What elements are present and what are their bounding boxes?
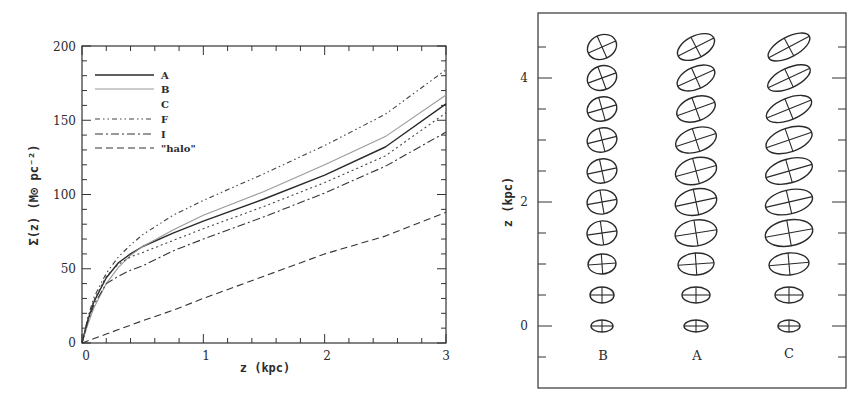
ellipse-marker-b <box>587 253 616 275</box>
ellipse-marker-b <box>585 125 620 156</box>
surface-density-plot: ABCFI"halo" 0 1 2 3 0 50 100 150 200 z (… <box>27 40 450 375</box>
left-plot-frame <box>82 46 446 343</box>
ellipse-marker-c <box>763 153 816 189</box>
xtick-label: 3 <box>442 349 450 363</box>
xtick-label: 0 <box>82 349 90 363</box>
ytick-label: 0 <box>520 319 528 333</box>
ellipse-marker-c <box>762 121 815 159</box>
legend-label: F <box>161 114 168 125</box>
ellipse-marker-a <box>673 185 719 219</box>
ellipse-marker-c <box>763 90 816 128</box>
ellipse-marker-a <box>682 287 710 303</box>
x-axis-title: z (kpc) <box>240 361 291 375</box>
ellipse-marker-a <box>673 28 719 66</box>
ellipse-marker-a <box>673 91 719 127</box>
legend-label: "halo" <box>161 143 196 154</box>
ellipse-marker-a <box>673 217 719 249</box>
ellipse-marker-b <box>591 320 613 332</box>
ellipse-marker-b <box>585 188 619 217</box>
curve-c <box>82 113 446 343</box>
ellipse-marker-a <box>684 320 708 332</box>
xtick-label: 1 <box>202 349 210 363</box>
y-axis-title: z (kpc) <box>501 177 515 228</box>
ellipse-marker-c <box>778 320 800 332</box>
ytick-label: 50 <box>61 262 76 276</box>
curve-halo <box>82 212 446 343</box>
y-axis-title: Σ(z) (M⊙ pc⁻²) <box>27 144 41 245</box>
ytick-label: 150 <box>53 114 76 128</box>
column-label-b: B <box>598 348 608 363</box>
legend: ABCFI"halo" <box>95 70 196 154</box>
ellipse-marker-c <box>763 185 815 219</box>
legend-label: B <box>161 84 169 95</box>
xtick-label: 2 <box>323 349 331 363</box>
ellipse-marker-a <box>672 122 719 158</box>
legend-label: C <box>161 99 169 110</box>
ytick-label: 100 <box>53 188 76 202</box>
curve-i <box>82 132 446 343</box>
ellipse-marker-a <box>677 252 714 276</box>
ellipse-marker-b <box>585 156 619 186</box>
left-curves <box>82 70 446 343</box>
ellipse-marker-a <box>672 153 719 189</box>
ellipse-marker-c <box>775 287 803 303</box>
ellipse-grid <box>583 27 815 332</box>
ellipse-marker-c <box>764 27 814 66</box>
legend-label: A <box>160 70 169 81</box>
ellipse-marker-c <box>768 251 810 276</box>
curve-b <box>82 95 446 343</box>
curve-a <box>82 104 446 343</box>
ellipse-diagram: 0 2 4 z (kpc) B A C <box>501 13 846 388</box>
ellipse-marker-b <box>590 287 614 303</box>
ellipse-marker-b <box>584 93 619 124</box>
ellipse-marker-b <box>585 219 618 247</box>
ellipse-marker-c <box>763 216 815 250</box>
ytick-label: 4 <box>520 71 528 85</box>
ellipse-marker-c <box>764 59 814 97</box>
legend-label: I <box>161 129 166 140</box>
ellipse-marker-a <box>673 60 718 96</box>
column-label-a: A <box>691 348 702 363</box>
right-axis-ticks <box>538 47 846 357</box>
left-axis-ticks <box>82 46 446 343</box>
ytick-label: 0 <box>68 336 76 350</box>
ytick-label: 2 <box>520 195 528 209</box>
column-label-c: C <box>784 346 794 361</box>
figure: ABCFI"halo" 0 1 2 3 0 50 100 150 200 z (… <box>0 0 868 403</box>
ellipse-marker-b <box>583 30 620 64</box>
ytick-label: 200 <box>53 40 76 54</box>
ellipse-marker-b <box>584 62 620 95</box>
